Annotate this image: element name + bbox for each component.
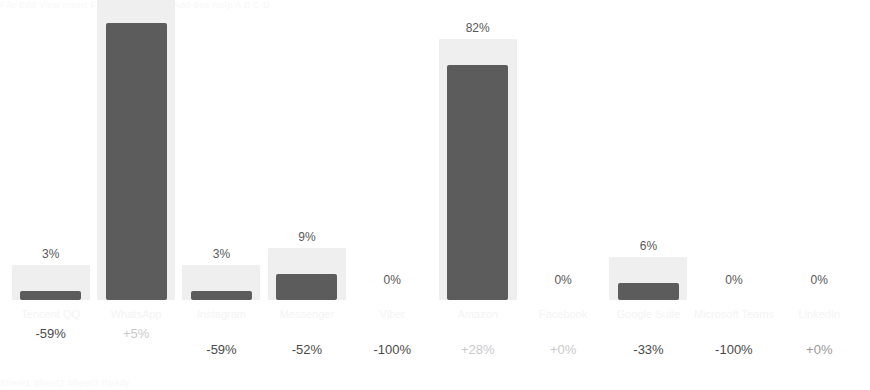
bar-category-label: Amazon — [435, 308, 520, 320]
chart-bar[interactable] — [20, 291, 81, 300]
bar-delta-label: -100% — [691, 342, 776, 357]
bar-value-label: 0% — [763, 273, 870, 287]
bar-delta-label: -59% — [8, 326, 93, 341]
chart-bar-group[interactable]: 3% — [179, 14, 264, 300]
bar-category-label: Facebook — [520, 308, 605, 320]
bar-category-label: Microsoft Teams — [691, 308, 776, 320]
bar-delta-label: -100% — [350, 342, 435, 357]
chart-bar[interactable] — [618, 283, 679, 300]
bar-delta-label: -52% — [264, 342, 349, 357]
bar-value-label: 82% — [421, 21, 534, 35]
bar-value-label: 0% — [336, 273, 449, 287]
bar-category-label: WhatsApp — [93, 308, 178, 320]
bar-value-label: 3% — [0, 247, 107, 261]
chart-bar[interactable] — [447, 65, 508, 300]
bar-delta-label: +0% — [777, 342, 862, 357]
chart-bar-group[interactable]: 6% — [606, 14, 691, 300]
bar-category-label: Tencent QQ — [8, 308, 93, 320]
chart-bar-group[interactable]: 9% — [264, 14, 349, 300]
bar-value-label: 0% — [506, 273, 619, 287]
bar-delta-label: +28% — [435, 342, 520, 357]
bar-category-label: Viber — [350, 308, 435, 320]
chart-bar-group[interactable]: 3% — [8, 14, 93, 300]
chart-bar-group[interactable]: 0% — [520, 14, 605, 300]
chart-bar-group[interactable]: 82% — [435, 14, 520, 300]
chart-bar[interactable] — [276, 274, 337, 300]
chart-bar[interactable] — [106, 23, 167, 300]
bar-value-label: 3% — [165, 247, 278, 261]
bar-category-label: Google Suite — [606, 308, 691, 320]
bar-value-label: 9% — [250, 230, 363, 244]
bar-value-label: 6% — [592, 239, 705, 253]
bar-category-label: LinkedIn — [777, 308, 862, 320]
chart-plot-area: 3%97%3%9%0%82%0%6%0%0% — [8, 14, 862, 300]
bar-delta-label: -33% — [606, 342, 691, 357]
bar-category-label: Instagram — [179, 308, 264, 320]
chart-bar-group[interactable]: 0% — [691, 14, 776, 300]
bar-delta-label: -59% — [179, 342, 264, 357]
chart-bar-group[interactable]: 0% — [350, 14, 435, 300]
bar-chart: 3%97%3%9%0%82%0%6%0%0% Tencent QQ-59%Wha… — [0, 0, 870, 390]
chart-baseline — [8, 300, 862, 301]
bar-category-label: Messenger — [264, 308, 349, 320]
bar-delta-label: +0% — [520, 342, 605, 357]
chart-bar[interactable] — [191, 291, 252, 300]
bar-delta-label: +5% — [93, 326, 178, 341]
chart-bar-group[interactable]: 0% — [777, 14, 862, 300]
